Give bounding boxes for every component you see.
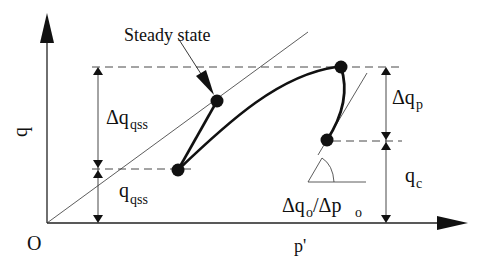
pointer-arrow-icon bbox=[196, 70, 214, 95]
svg-text:o: o bbox=[355, 205, 362, 220]
q-qss-label: q qss bbox=[119, 179, 148, 207]
svg-text:qss: qss bbox=[130, 117, 148, 132]
x-axis-arrow-icon bbox=[437, 216, 468, 230]
svg-text:/Δp: /Δp bbox=[313, 194, 341, 217]
x-axis bbox=[47, 216, 468, 230]
svg-text:q: q bbox=[119, 179, 129, 202]
steady-state-line bbox=[47, 32, 308, 223]
steady-state-pointer bbox=[178, 38, 214, 95]
stress-path-diagram: Steady state q p' O Δq qss q qss Δq p q … bbox=[0, 0, 481, 273]
svg-text:qss: qss bbox=[130, 192, 148, 207]
peak-point bbox=[335, 61, 348, 74]
steady-state-point bbox=[211, 95, 224, 108]
slope-label: Δq o /Δp o bbox=[282, 194, 362, 220]
svg-text:Δq: Δq bbox=[392, 86, 415, 109]
y-axis-arrow-icon bbox=[40, 13, 54, 43]
x-axis-label: p' bbox=[294, 236, 306, 256]
svg-text:c: c bbox=[416, 176, 422, 191]
svg-text:q: q bbox=[405, 164, 415, 187]
delta-q-qss-dimension bbox=[93, 67, 103, 223]
origin-label: O bbox=[27, 232, 41, 254]
svg-text:o: o bbox=[306, 205, 313, 220]
svg-text:Δq: Δq bbox=[106, 106, 129, 129]
delta-q-p-dimension bbox=[381, 67, 391, 223]
delta-q-p-label: Δq p bbox=[392, 86, 423, 112]
right-low-point bbox=[321, 134, 334, 147]
initial-low-point bbox=[172, 164, 185, 177]
steady-state-label: Steady state bbox=[124, 25, 210, 45]
y-axis-label: q bbox=[9, 127, 32, 137]
svg-text:Δq: Δq bbox=[282, 194, 305, 217]
y-axis bbox=[40, 13, 54, 223]
q-c-label: q c bbox=[405, 164, 422, 191]
diagram-canvas: Steady state q p' O Δq qss q qss Δq p q … bbox=[0, 0, 481, 273]
svg-text:p: p bbox=[416, 97, 423, 112]
slope-angle-indicator bbox=[308, 158, 366, 182]
delta-q-qss-label: Δq qss bbox=[106, 106, 148, 132]
